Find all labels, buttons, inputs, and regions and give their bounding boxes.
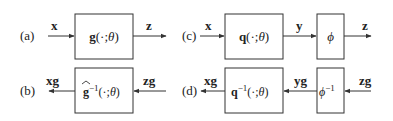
q-block-label: q(·;θ) (239, 29, 269, 44)
phi-inverse-label: ϕ−1 (319, 83, 335, 99)
input-x-label: x (205, 18, 212, 33)
input-zg-label: zg (359, 73, 372, 88)
panel-a-label: (a) (20, 28, 34, 43)
panel-b-label: (b) (20, 83, 35, 98)
output-z-label: z (362, 18, 368, 33)
phi-block-label: ϕ (327, 29, 334, 44)
panel-c: (c) x q(·;θ) y ϕ z (182, 14, 371, 59)
flow-diagram: (a) x g(·;θ) z (b) xg g−1(·;θ) zg (c) x … (0, 0, 393, 121)
input-x-label: x (51, 18, 58, 33)
panel-c-label: (c) (182, 28, 196, 43)
q-inverse-label: q−1(·;θ) (231, 83, 269, 99)
panel-d-label: (d) (182, 83, 197, 98)
panel-b: (b) xg g−1(·;θ) zg (20, 68, 166, 113)
output-xg-label: xg (46, 73, 60, 88)
g-block-label: g(·;θ) (89, 29, 119, 44)
mid-yg-label: yg (294, 73, 308, 88)
panel-a: (a) x g(·;θ) z (20, 14, 166, 59)
input-zg-label: zg (143, 73, 156, 88)
output-xg-label: xg (204, 73, 218, 88)
panel-d: (d) xg q−1(·;θ) yg ϕ−1 zg (182, 68, 372, 113)
g-inverse-label: g−1(·;θ) (83, 83, 120, 99)
output-z-label: z (146, 18, 152, 33)
mid-y-label: y (296, 18, 303, 33)
